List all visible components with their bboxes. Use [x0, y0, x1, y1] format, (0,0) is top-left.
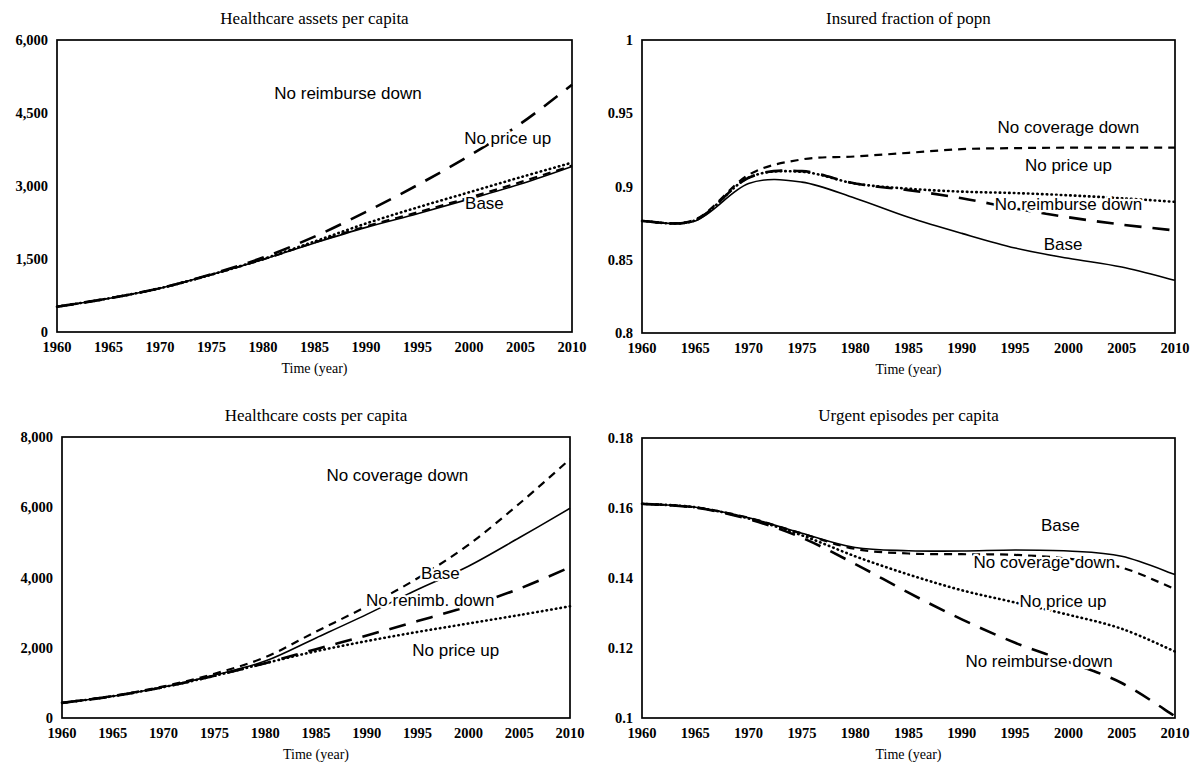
y-axis-tick-label: 0.18 [608, 430, 633, 446]
y-axis-tick-label: 0.12 [608, 640, 633, 656]
x-axis-tick-label: 1965 [98, 725, 127, 741]
x-axis-tick-label: 2000 [454, 725, 483, 741]
chart-title: Healthcare costs per capita [225, 406, 408, 425]
chart-title: Insured fraction of popn [826, 9, 991, 28]
x-axis-label: Time (year) [876, 362, 942, 378]
x-axis-tick-label: 1995 [1001, 725, 1030, 741]
y-axis-tick-label: 0.9 [615, 179, 633, 195]
x-axis-tick-label: 1990 [352, 339, 381, 355]
x-axis-tick-label: 1980 [251, 725, 280, 741]
x-axis-tick-label: 1985 [894, 340, 923, 356]
y-axis-tick-label: 0 [41, 324, 48, 340]
x-axis-tick-label: 2010 [558, 339, 587, 355]
series-annotation-no-coverage-down: No coverage down [326, 466, 468, 485]
y-axis-tick-label: 0.14 [608, 570, 633, 586]
series-annotation-base: Base [465, 194, 504, 213]
y-axis-tick-label: 1,500 [15, 251, 48, 267]
x-axis-tick-label: 2000 [1054, 340, 1083, 356]
chart-svg-insured-fraction: Insured fraction of popn0.80.850.90.9511… [597, 0, 1193, 392]
chart-panel-healthcare-costs: Healthcare costs per capita02,0004,0006,… [0, 392, 596, 783]
y-axis-tick-label: 0.95 [608, 105, 633, 121]
series-annotation-no-price-up: No price up [1020, 592, 1107, 611]
y-axis-tick-label: 1 [626, 32, 633, 48]
x-axis-tick-label: 2010 [1161, 340, 1190, 356]
x-axis-tick-label: 1960 [628, 340, 657, 356]
x-axis-tick-label: 1970 [734, 725, 763, 741]
chart-svg-healthcare-assets: Healthcare assets per capita01,5003,0004… [0, 0, 596, 392]
plot-frame [62, 437, 570, 718]
x-axis-tick-label: 1960 [43, 339, 72, 355]
x-axis-tick-label: 2005 [1107, 340, 1136, 356]
x-axis-tick-label: 2000 [1054, 725, 1083, 741]
series-annotation-no-price-up: No price up [1025, 156, 1112, 175]
y-axis-tick-label: 0 [46, 710, 53, 726]
x-axis-tick-label: 1985 [302, 725, 331, 741]
y-axis-tick-label: 0.85 [608, 252, 633, 268]
x-axis-tick-label: 1990 [352, 725, 381, 741]
x-axis-tick-label: 1995 [403, 725, 432, 741]
y-axis-tick-label: 0.1 [615, 710, 633, 726]
x-axis-tick-label: 1975 [787, 340, 816, 356]
series-annotation-no-price-up: No price up [412, 641, 499, 660]
x-axis-tick-label: 1985 [894, 725, 923, 741]
chart-title: Healthcare assets per capita [220, 9, 409, 28]
series-line-no-coverage-down [642, 504, 1175, 589]
x-axis-tick-label: 2005 [506, 339, 535, 355]
x-axis-tick-label: 1965 [681, 340, 710, 356]
x-axis-tick-label: 1975 [197, 339, 226, 355]
figure-four-panel-chart: Healthcare assets per capita01,5003,0004… [0, 0, 1193, 783]
x-axis-tick-label: 2005 [505, 725, 534, 741]
series-line-no-reimburse-down [62, 567, 570, 703]
y-axis-tick-label: 0.8 [615, 325, 633, 341]
x-axis-tick-label: 1960 [48, 725, 77, 741]
series-line-no-coverage-down [62, 459, 570, 703]
x-axis-label: Time (year) [282, 361, 348, 377]
x-axis-tick-label: 1975 [787, 725, 816, 741]
y-axis-tick-label: 4,500 [15, 105, 48, 121]
y-axis-tick-label: 6,000 [20, 499, 53, 515]
series-annotation-no-renimb-down: No renimb. down [366, 591, 495, 610]
series-annotation-no-coverage-down: No coverage down [974, 553, 1116, 572]
y-axis-tick-label: 6,000 [15, 32, 48, 48]
series-line-no-price-up [642, 504, 1175, 652]
y-axis-tick-label: 8,000 [20, 429, 53, 445]
series-annotation-no-coverage-down: No coverage down [998, 118, 1140, 137]
x-axis-tick-label: 1970 [734, 340, 763, 356]
x-axis-tick-label: 1960 [628, 725, 657, 741]
x-axis-tick-label: 1990 [947, 340, 976, 356]
series-annotation-no-reimburse-down: No reimburse down [995, 195, 1142, 214]
x-axis-tick-label: 2010 [1161, 725, 1190, 741]
chart-panel-urgent-episodes: Urgent episodes per capita0.10.120.140.1… [597, 392, 1193, 783]
series-annotation-base: Base [421, 564, 460, 583]
x-axis-tick-label: 1980 [841, 340, 870, 356]
chart-panel-healthcare-assets: Healthcare assets per capita01,5003,0004… [0, 0, 596, 392]
x-axis-tick-label: 1965 [94, 339, 123, 355]
x-axis-tick-label: 1985 [300, 339, 329, 355]
y-axis-tick-label: 4,000 [20, 570, 53, 586]
series-annotation-no-price-up: No price up [464, 129, 551, 148]
x-axis-tick-label: 1980 [249, 339, 278, 355]
series-annotation-no-reimburse-down: No reimburse down [965, 652, 1112, 671]
chart-panel-insured-fraction: Insured fraction of popn0.80.850.90.9511… [597, 0, 1193, 392]
x-axis-tick-label: 1995 [403, 339, 432, 355]
x-axis-label: Time (year) [876, 747, 942, 763]
x-axis-tick-label: 2010 [556, 725, 585, 741]
x-axis-tick-label: 1970 [146, 339, 175, 355]
plot-frame [642, 40, 1175, 333]
chart-svg-urgent-episodes: Urgent episodes per capita0.10.120.140.1… [597, 392, 1193, 783]
x-axis-tick-label: 1995 [1001, 340, 1030, 356]
x-axis-tick-label: 1970 [149, 725, 178, 741]
series-line-no-price-up [57, 163, 572, 307]
series-annotation-no-reimburse-down: No reimburse down [274, 84, 421, 103]
x-axis-tick-label: 2000 [455, 339, 484, 355]
x-axis-tick-label: 1965 [681, 725, 710, 741]
x-axis-label: Time (year) [283, 747, 349, 763]
chart-svg-healthcare-costs: Healthcare costs per capita02,0004,0006,… [0, 392, 596, 783]
x-axis-tick-label: 2005 [1107, 725, 1136, 741]
chart-title: Urgent episodes per capita [818, 406, 999, 425]
x-axis-tick-label: 1990 [947, 725, 976, 741]
plot-frame [642, 438, 1175, 718]
x-axis-tick-label: 1975 [200, 725, 229, 741]
y-axis-tick-label: 0.16 [608, 500, 633, 516]
series-annotation-base: Base [1041, 516, 1080, 535]
